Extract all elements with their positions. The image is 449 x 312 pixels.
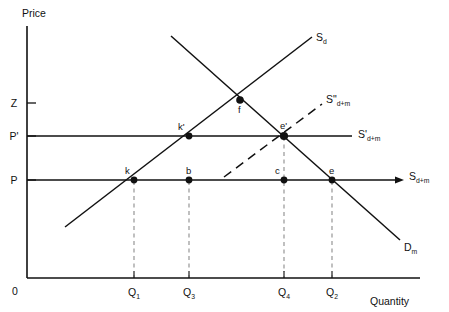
y-tick-marks [27,103,36,180]
data-points-group [131,96,336,183]
x-tick-label-q3-sub: 3 [191,293,195,300]
curve-label-demand: Dm [404,241,418,255]
curve-label-sdm-sub: d+m [416,177,430,184]
curve-label-sdm-dprime-sub: d+m [337,100,351,107]
curve-label-supply-dm-prime: S'd+m [358,128,381,142]
y-axis-title: Price [22,7,46,19]
curve-label-supply-dm-doubleprime: S"d+m [326,93,350,107]
curve-label-supply-dm: Sd+m [409,170,430,184]
x-tick-label-q2-sub: 2 [334,293,338,300]
y-tick-label-p: P [10,174,17,186]
x-axis-title: Quantity [370,295,410,307]
axes-group [27,26,420,278]
point-dot-b [186,177,193,184]
y-tick-label-z: Z [11,97,18,109]
point-dot-f [236,96,244,104]
point-dot-k-prime [186,133,193,140]
point-label-c: c [275,165,280,176]
point-label-k-prime: k' [178,121,185,132]
diagram-canvas: k b c e k' e' f Sd Dm Sd+m S'd+m S"d+m [0,0,449,312]
curve-label-dm-sub: m [412,248,418,255]
curves-group [27,36,404,240]
x-tick-label-q4-main: Q [278,286,286,298]
curve-label-sdm-dprime-main: S" [326,93,337,105]
curve-label-sdm-prime-sub: d+m [367,135,381,142]
x-tick-label-q4: Q4 [278,286,290,300]
curve-label-sdm-main: S [409,170,416,182]
x-tick-label-q2: Q2 [326,286,338,300]
point-label-e-prime: e' [280,120,287,131]
curve-label-sd-sub: d [323,38,327,45]
point-dot-e-prime [280,132,288,140]
drop-lines-group [134,137,332,278]
point-dot-c [281,177,288,184]
x-tick-label-q1: Q1 [128,286,140,300]
arrow-head-supply-dm [395,177,404,184]
x-tick-label-q1-sub: 1 [136,293,140,300]
point-dot-e [329,177,336,184]
axis-tick-labels-group: Z P' P Q1 Q3 Q4 Q2 [9,97,338,300]
x-tick-label-q3-main: Q [183,286,191,298]
point-label-b: b [186,165,191,176]
curve-labels-group: Sd Dm Sd+m S'd+m S"d+m [316,31,430,255]
point-label-f: f [238,104,241,115]
x-tick-label-q2-main: Q [326,286,334,298]
x-tick-label-q1-main: Q [128,286,136,298]
x-tick-marks [134,271,332,278]
x-tick-label-q3: Q3 [183,286,195,300]
curve-label-supply-domestic: Sd [316,31,327,45]
point-labels-group: k b c e k' e' f [125,104,334,176]
curve-label-sdm-prime-main: S' [358,128,367,140]
curve-label-sd-main: S [316,31,323,43]
y-tick-label-p-prime: P' [9,130,18,142]
origin-label: 0 [12,285,18,297]
x-tick-label-q4-sub: 4 [286,293,290,300]
point-dot-k [131,177,138,184]
point-label-e: e [329,165,334,176]
axis-titles-group: Price Quantity 0 [12,7,410,307]
supply-demand-chart: k b c e k' e' f Sd Dm Sd+m S'd+m S"d+m [0,0,449,312]
point-label-k: k [125,165,130,176]
